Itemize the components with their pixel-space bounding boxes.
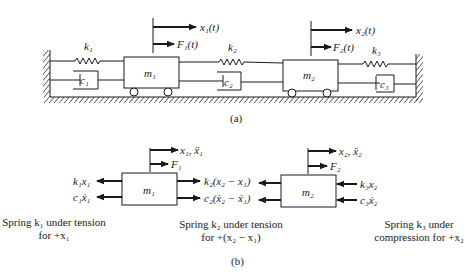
fbd-m1-spring-force-left: k₁x₁ bbox=[73, 175, 90, 187]
damper-label-c2: c₂ bbox=[224, 76, 233, 88]
ground bbox=[44, 97, 418, 103]
spring-k3 bbox=[338, 61, 416, 67]
caption-k2-line2: for +(x₂ − x₁) bbox=[176, 231, 286, 244]
fbd-m1 bbox=[97, 148, 200, 205]
fbd-m1-mass-label: m₁ bbox=[143, 184, 155, 196]
fbd-m1-spring-force-right: k₂(x₂ − x₁) bbox=[204, 175, 250, 187]
fbd-m1-damper-force-left: c₁ẋ₁ bbox=[73, 191, 90, 203]
displacement-label-x2: x₂(t) bbox=[356, 24, 375, 36]
left-wall bbox=[43, 50, 50, 97]
spring-label-k1: k₁ bbox=[84, 40, 93, 52]
caption-k1-line1: Spring k₁ under tension bbox=[0, 216, 108, 229]
spring-label-k2: k₂ bbox=[228, 41, 237, 53]
damper-c3 bbox=[338, 75, 416, 92]
caption-spring-k3: Spring k₃ under compression for +x₂ bbox=[366, 218, 472, 244]
caption-k2-line1: Spring k₂ under tension bbox=[176, 218, 286, 231]
spring-k1 bbox=[50, 58, 124, 64]
mass-label-m2: m₂ bbox=[303, 69, 315, 81]
fbd-m2-damper-force-right: c₃ẋ₂ bbox=[360, 194, 377, 206]
force-label-F1: F₁(t) bbox=[177, 38, 198, 50]
caption-k1-line2: for +x₁ bbox=[0, 229, 108, 242]
spring-k2 bbox=[179, 59, 283, 65]
damper-label-c1: c₁ bbox=[80, 74, 89, 86]
displacement-label-x1: x₁(t) bbox=[200, 21, 219, 33]
fbd-m2-force-label: F₂ bbox=[330, 160, 341, 172]
fbd-m2-spring-force-right: k₃x₂ bbox=[360, 178, 377, 190]
mass-label-m1: m₁ bbox=[144, 67, 156, 79]
caption-k3-line2: compression for +x₂ bbox=[366, 231, 472, 244]
fbd-m1-motion-label: x₁, ẍ₁ bbox=[180, 144, 203, 156]
caption-k3-line1: Spring k₃ under bbox=[366, 218, 472, 231]
fbd-m1-force-label: F₁ bbox=[171, 158, 182, 170]
fbd-m2-mass-label: m₂ bbox=[302, 186, 314, 198]
fbd-m1-damper-force-right: c₂(ẋ₂ − ẋ₁) bbox=[204, 192, 250, 204]
part-a-label: (a) bbox=[230, 112, 242, 124]
caption-spring-k1: Spring k₁ under tension for +x₁ bbox=[0, 216, 108, 242]
fbd-m2-motion-label: x₂, ẍ₂ bbox=[339, 145, 362, 157]
force-label-F2: F₂(t) bbox=[333, 41, 354, 53]
caption-spring-k2: Spring k₂ under tension for +(x₂ − x₁) bbox=[176, 218, 286, 244]
spring-label-k3: k₃ bbox=[372, 44, 381, 56]
right-wall bbox=[416, 54, 423, 103]
damper-label-c3: c₃ bbox=[380, 78, 389, 90]
part-b-label: (b) bbox=[231, 255, 244, 267]
